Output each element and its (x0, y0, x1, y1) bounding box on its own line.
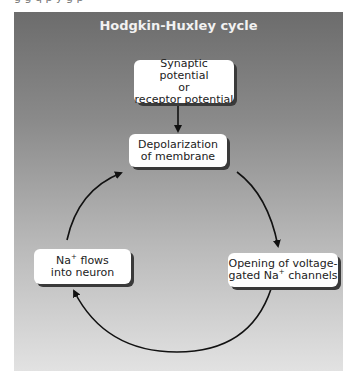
node-text: flows (77, 254, 109, 267)
node-text: channels (285, 269, 338, 282)
arrow-depolarization-to-opening (237, 172, 278, 246)
node-synaptic-potential: Synaptic potential or receptor potential (134, 60, 234, 103)
arrow-naflows-to-depolarization (67, 173, 121, 240)
node-text: gated Na (229, 269, 279, 282)
node-text: receptor potential (134, 94, 234, 106)
node-text: Depolarization (138, 139, 218, 151)
node-text: or (134, 82, 234, 94)
arrow-opening-to-naflows (74, 289, 271, 352)
node-text: of membrane (138, 151, 218, 163)
node-text: into neuron (51, 267, 114, 279)
node-opening-channels: Opening of voltage- gated Na+ channels (228, 253, 338, 287)
node-text: Na (56, 254, 71, 267)
node-text: Synaptic potential (134, 58, 234, 82)
node-depolarization: Depolarization of membrane (129, 134, 227, 167)
node-na-flows: Na+ flows into neuron (34, 249, 131, 284)
